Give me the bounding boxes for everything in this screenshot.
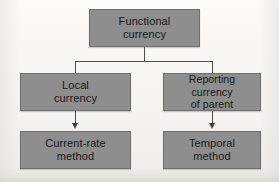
connector-bus-to-reporting-currency bbox=[212, 61, 213, 73]
node-label-local-currency: Local currency bbox=[51, 79, 100, 106]
page-bottom-shading bbox=[0, 168, 279, 182]
flowchart-diagram: Functional currency Local currency Repor… bbox=[0, 0, 279, 182]
connector-horizontal-bus bbox=[75, 61, 213, 62]
node-label-functional-currency: Functional currency bbox=[116, 15, 174, 42]
node-reporting-currency-of-parent: Reporting currency of parent bbox=[163, 73, 261, 111]
connector-functional-currency-stem bbox=[144, 47, 145, 62]
connector-bus-to-local-currency bbox=[75, 61, 76, 73]
node-label-temporal-method: Temporal method bbox=[186, 137, 238, 164]
node-functional-currency: Functional currency bbox=[89, 9, 200, 47]
node-label-reporting-currency-of-parent: Reporting currency of parent bbox=[164, 73, 260, 111]
node-label-current-rate-method: Current-rate method bbox=[42, 137, 109, 164]
arrowhead-icon-current-rate-method bbox=[72, 123, 78, 129]
node-temporal-method: Temporal method bbox=[163, 131, 261, 169]
arrowhead-icon-temporal-method bbox=[209, 123, 215, 129]
node-local-currency: Local currency bbox=[20, 73, 131, 111]
node-current-rate-method: Current-rate method bbox=[20, 131, 131, 169]
